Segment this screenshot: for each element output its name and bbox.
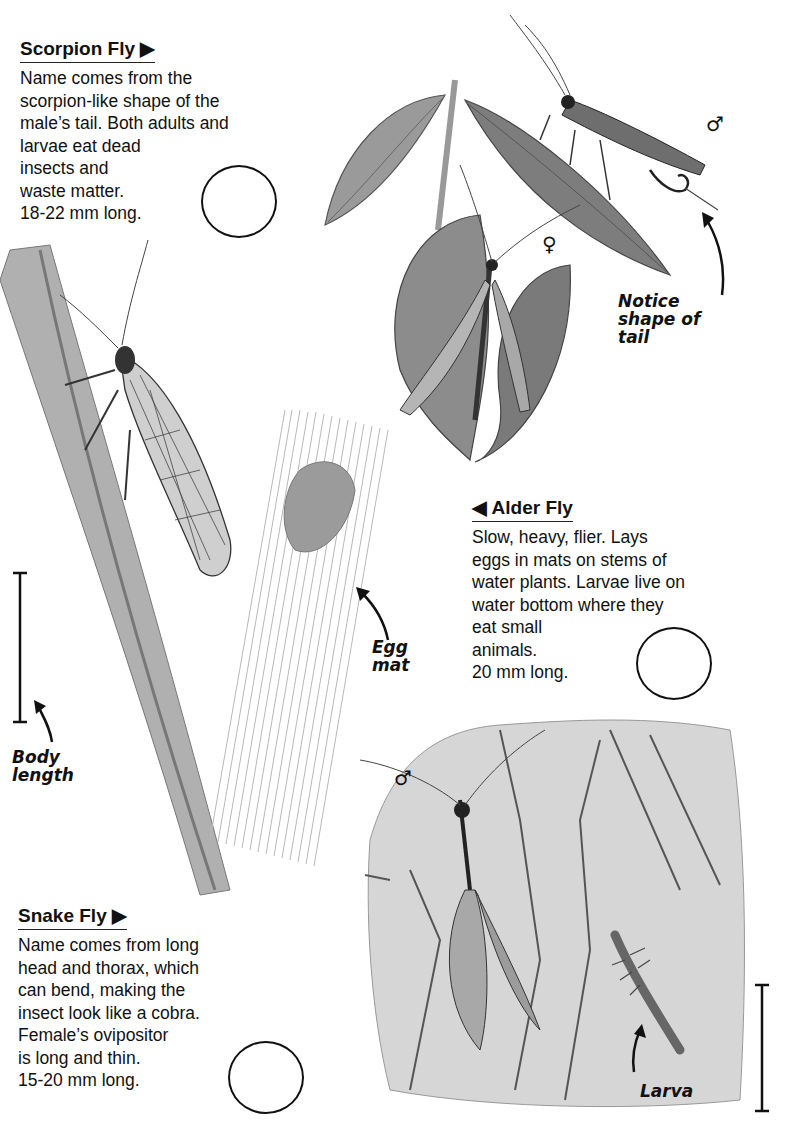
male-symbol-snake: ♂ (394, 766, 412, 790)
egg-mat-arrow-icon (354, 585, 394, 645)
alder-fly-spotted-circle[interactable] (636, 627, 712, 700)
alder-fly-description: Slow, heavy, flier. Lays eggs in mats on… (472, 526, 782, 684)
body-length-scale-bar (10, 570, 30, 725)
female-symbol-scorpion: ♀ (542, 232, 557, 256)
larva-arrow-icon (628, 1024, 648, 1074)
scorpion-fly-heading: Scorpion Fly ▶ (20, 37, 155, 63)
larva-scale-bar (752, 982, 772, 1114)
snake-fly-heading: Snake Fly ▶ (18, 904, 127, 930)
body-length-arrow-icon (34, 700, 58, 745)
body-length-label: Body length (12, 748, 74, 784)
male-symbol-scorpion: ♂ (706, 112, 724, 136)
snake-fly-illustration (350, 710, 785, 1130)
alder-fly-heading: ◀ Alder Fly (472, 496, 573, 522)
alder-fly-section: ◀ Alder Fly Slow, heavy, flier. Lays egg… (472, 496, 782, 684)
tail-arrow-icon (700, 210, 730, 300)
snake-fly-spotted-circle[interactable] (228, 1041, 304, 1114)
scorpion-fly-spotted-circle[interactable] (201, 165, 277, 238)
larva-label: Larva (640, 1082, 693, 1100)
notice-tail-label: Notice shape of tail (618, 292, 700, 346)
